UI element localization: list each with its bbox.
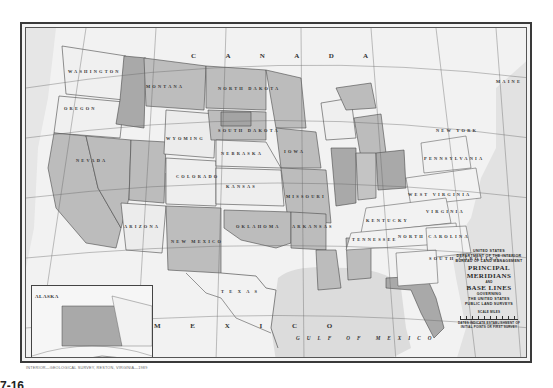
footer-credit: INTERIOR—GEOLOGICAL SURVEY, RESTON, VIRG… bbox=[26, 366, 148, 370]
label-north-dakota: NORTH DAKOTA bbox=[218, 86, 280, 91]
label-canada: C A N A D A bbox=[191, 52, 382, 60]
label-colorado: COLORADO bbox=[176, 174, 219, 179]
label-texas: T E X A S bbox=[221, 289, 259, 294]
label-new-mexico: NEW MEXICO bbox=[171, 239, 223, 244]
label-iowa: IOWA bbox=[284, 149, 305, 154]
label-nevada: NEVADA bbox=[76, 158, 107, 163]
label-missouri: MISSOURI bbox=[286, 194, 326, 199]
map-title-block: UNITED STATES DEPARTMENT OF THE INTERIOR… bbox=[450, 249, 527, 329]
map-frame: C A N A D A M E X I C O GULF OF MEXICO W… bbox=[20, 22, 532, 363]
label-oregon: OREGON bbox=[64, 106, 97, 111]
label-wyoming: WYOMING bbox=[166, 136, 205, 141]
map-title-line-2: BASE LINES bbox=[450, 284, 527, 292]
label-new-york: NEW YORK bbox=[436, 128, 478, 133]
map-canvas: C A N A D A M E X I C O GULF OF MEXICO W… bbox=[25, 27, 527, 358]
map-note-line-2: INITIAL POINTS OR FIRST SURVEY bbox=[450, 325, 527, 329]
scale-bar bbox=[460, 316, 518, 320]
label-arizona: ARIZONA bbox=[124, 224, 160, 229]
label-montana: MONTANA bbox=[146, 84, 184, 89]
label-oklahoma: OKLAHOMA bbox=[236, 224, 281, 229]
label-mexico: M E X I C O bbox=[154, 322, 346, 330]
label-pennsylvania: PENNSYLVANIA bbox=[424, 156, 484, 161]
plate-number: 7-16 bbox=[0, 380, 24, 388]
label-maine: MAINE bbox=[496, 79, 522, 84]
label-washington: WASHINGTON bbox=[68, 69, 121, 74]
label-virginia: VIRGINIA bbox=[426, 209, 465, 214]
scale-label: SCALE MILES bbox=[450, 310, 527, 314]
alaska-inset-title: ALASKA bbox=[35, 294, 59, 299]
map-title-line-1: PRINCIPAL MERIDIANS bbox=[450, 264, 527, 280]
label-arkansas: ARKANSAS bbox=[292, 224, 334, 229]
label-west-virginia: WEST VIRGINIA bbox=[408, 192, 471, 197]
label-north-carolina: NORTH CAROLINA bbox=[398, 234, 470, 239]
label-tennessee: TENNESSEE bbox=[352, 237, 398, 242]
label-kentucky: KENTUCKY bbox=[366, 218, 409, 223]
label-kansas: KANSAS bbox=[226, 184, 257, 189]
label-south-dakota: SOUTH DAKOTA bbox=[218, 128, 280, 133]
alaska-inset: ALASKA bbox=[31, 285, 153, 358]
map-subtitle-3: PUBLIC LAND SURVEYS bbox=[450, 302, 527, 307]
label-gulf-of-mexico: GULF OF MEXICO bbox=[296, 335, 439, 341]
label-nebraska: NEBRASKA bbox=[221, 151, 263, 156]
